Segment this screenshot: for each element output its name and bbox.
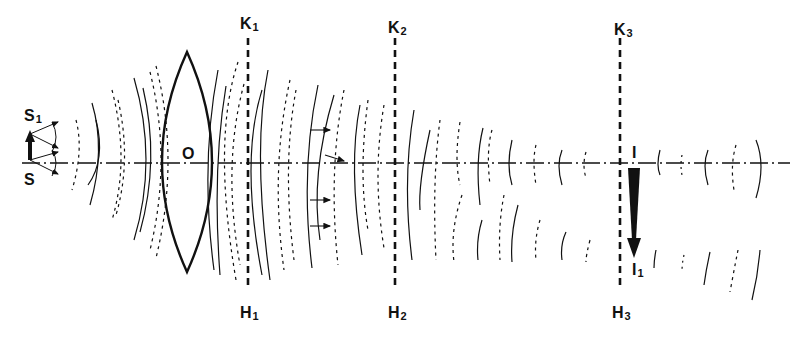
label-k3: K3 bbox=[614, 22, 633, 38]
label-k1: K1 bbox=[240, 16, 259, 32]
object-arrow bbox=[25, 122, 58, 176]
image-arrow bbox=[627, 168, 641, 258]
middle-wavefronts bbox=[278, 80, 384, 270]
label-k2: K2 bbox=[388, 20, 407, 36]
label-h3: H3 bbox=[612, 305, 631, 321]
label-h2: H2 bbox=[388, 305, 407, 321]
beyond-image-wavefronts bbox=[654, 140, 761, 300]
optics-diagram bbox=[0, 0, 798, 340]
outgoing-wavefronts-1 bbox=[208, 62, 270, 280]
label-h1: H1 bbox=[240, 305, 259, 321]
label-o: O bbox=[182, 146, 194, 162]
far-wavefronts bbox=[407, 110, 590, 262]
lens bbox=[162, 52, 212, 272]
propagation-arrows bbox=[310, 130, 344, 226]
label-i: I bbox=[632, 145, 636, 161]
label-s: S bbox=[24, 172, 35, 188]
incoming-wavefronts bbox=[72, 66, 168, 258]
label-i1: I1 bbox=[632, 262, 644, 278]
label-s1: S1 bbox=[24, 108, 42, 124]
